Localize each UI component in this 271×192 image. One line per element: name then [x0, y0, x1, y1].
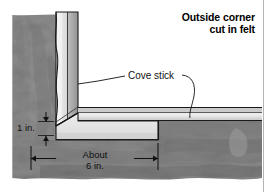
figure-outside-corner-cut-in-felt: Outside corner cut in felt Cove stick 1 … — [0, 0, 271, 192]
leader-line-left — [78, 76, 125, 84]
label-dimension-about-6-inches: About 6 in. — [62, 150, 128, 171]
label-dimension-1-inch: 1 in. — [17, 122, 35, 133]
figure-title-line-2: cut in felt — [105, 23, 255, 35]
figure-title: Outside corner cut in felt — [105, 11, 255, 35]
cove-stick-horizontal — [78, 107, 262, 121]
label-dimension-about: About — [62, 150, 128, 161]
label-cove-stick: Cove stick — [128, 70, 174, 81]
page-margin-rule — [263, 0, 264, 192]
figure-title-line-1: Outside corner — [105, 11, 255, 23]
label-dimension-6-inches: 6 in. — [62, 161, 128, 172]
